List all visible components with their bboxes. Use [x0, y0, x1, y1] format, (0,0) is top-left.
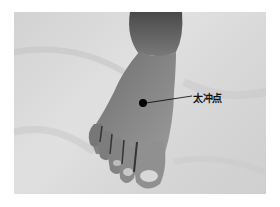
acupoint-marker: [139, 99, 147, 107]
foot-illustration: [14, 12, 266, 194]
foot-photo: [14, 12, 266, 194]
acupoint-label: 太冲点: [193, 90, 222, 105]
